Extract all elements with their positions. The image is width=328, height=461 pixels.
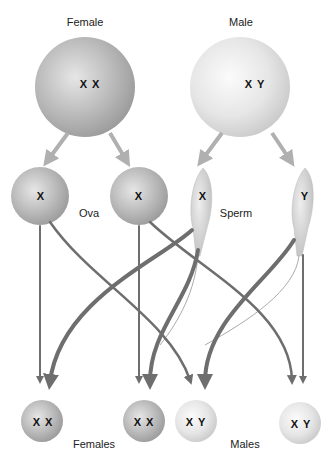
male-parent-cell <box>190 37 290 137</box>
ovum-1-chromosome: X <box>37 190 45 202</box>
sperm-y <box>205 168 313 345</box>
offspring-3-chromosomes: X Y <box>186 416 207 428</box>
offspring-4-chromosomes: X Y <box>291 418 312 430</box>
meiosis-arrows <box>48 133 290 160</box>
male-label: Male <box>229 16 253 28</box>
males-label: Males <box>230 438 259 450</box>
sperm-x-chromosome: X <box>199 190 207 202</box>
male-chromosomes: X Y <box>245 78 266 90</box>
ovum-2-chromosome: X <box>135 190 143 202</box>
fertilization-arrows <box>40 222 303 382</box>
sex-determination-diagram <box>0 0 328 461</box>
sperm-label: Sperm <box>220 207 252 219</box>
sperm-y-chromosome: Y <box>301 190 309 202</box>
ova-label: Ova <box>79 207 99 219</box>
females-label: Females <box>73 438 115 450</box>
offspring-2-chromosomes: X X <box>134 416 155 428</box>
female-chromosomes: X X <box>80 78 101 90</box>
female-label: Female <box>67 16 104 28</box>
offspring-1-chromosomes: X X <box>33 416 54 428</box>
